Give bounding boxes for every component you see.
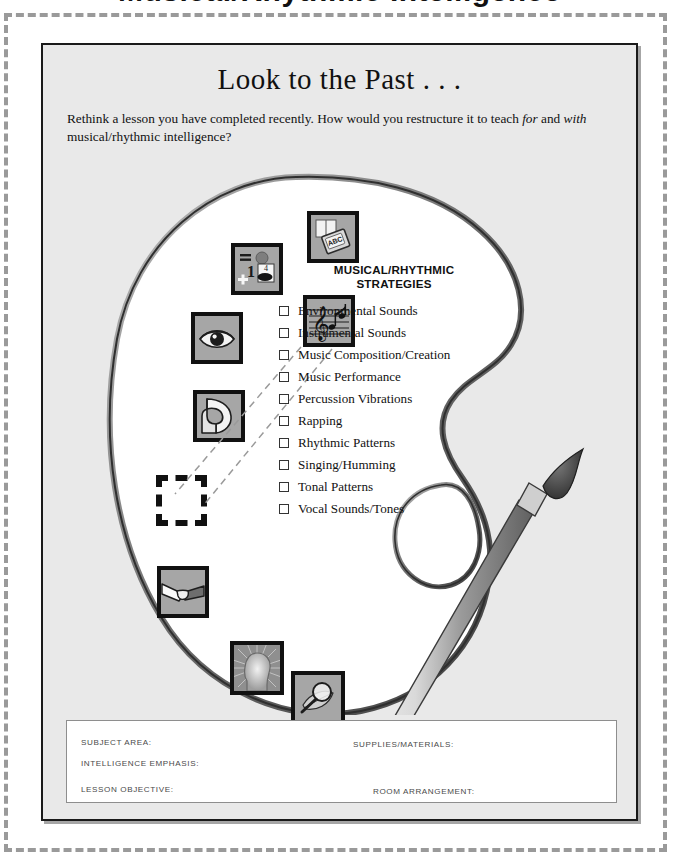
list-item-label: Singing/Humming xyxy=(298,457,396,473)
lesson-objective-label: LESSON OBJECTIVE: xyxy=(81,785,174,794)
cropped-page-title: Musical/Rhythmic Intelligence xyxy=(0,0,679,13)
cropped-page-title-text: Musical/Rhythmic Intelligence xyxy=(0,0,679,8)
worksheet-card: Look to the Past . . . Rethink a lesson … xyxy=(41,43,638,821)
verbal-linguistic-book-icon[interactable]: ABC xyxy=(307,211,359,263)
checkbox[interactable] xyxy=(279,372,289,382)
list-item[interactable]: Singing/Humming xyxy=(279,457,509,473)
list-item[interactable]: Environmental Sounds xyxy=(279,303,509,319)
prompt-emphasis-with: with xyxy=(564,111,587,126)
logical-mathematical-icon[interactable]: 1 4 xyxy=(231,243,283,295)
list-item-label: Rhythmic Patterns xyxy=(298,435,395,451)
checkbox[interactable] xyxy=(279,438,289,448)
list-item-label: Music Composition/Creation xyxy=(298,347,450,363)
strategies-heading-line2: STRATEGIES xyxy=(279,277,509,291)
page-title: Look to the Past . . . xyxy=(43,63,636,96)
prompt-text-2: and xyxy=(538,111,564,126)
checkbox[interactable] xyxy=(279,504,289,514)
list-item[interactable]: Rapping xyxy=(279,413,509,429)
bodily-kinesthetic-arm-icon[interactable] xyxy=(193,390,245,442)
empty-placeholder-icon[interactable] xyxy=(156,475,207,526)
svg-text:1: 1 xyxy=(247,263,255,280)
strategies-heading-line1: MUSICAL/RHYTHMIC xyxy=(334,263,454,276)
list-item-label: Tonal Patterns xyxy=(298,479,373,495)
checkbox[interactable] xyxy=(279,394,289,404)
lesson-form-box: SUBJECT AREA: INTELLIGENCE EMPHASIS: LES… xyxy=(66,720,617,803)
list-item-label: Vocal Sounds/Tones xyxy=(298,501,404,517)
intrapersonal-head-icon[interactable] xyxy=(230,641,284,695)
visual-spatial-eye-icon[interactable] xyxy=(191,312,243,364)
palette-illustration: ABC 1 4 xyxy=(43,149,638,715)
strategies-heading: MUSICAL/RHYTHMIC STRATEGIES xyxy=(279,263,509,292)
room-arrangement-label: ROOM ARRANGEMENT: xyxy=(373,787,475,796)
list-item[interactable]: Vocal Sounds/Tones xyxy=(279,501,509,517)
list-item[interactable]: Music Performance xyxy=(279,369,509,385)
checkbox[interactable] xyxy=(279,482,289,492)
list-item-label: Music Performance xyxy=(298,369,401,385)
checkbox[interactable] xyxy=(279,460,289,470)
prompt-text-3: musical/rhythmic intelligence? xyxy=(67,129,231,144)
list-item-label: Rapping xyxy=(298,413,342,429)
list-item-label: Percussion Vibrations xyxy=(298,391,412,407)
subject-area-label: SUBJECT AREA: xyxy=(81,738,152,747)
naturalist-magnifier-leaf-icon[interactable] xyxy=(291,671,345,725)
strategies-block: MUSICAL/RHYTHMIC STRATEGIES Environmenta… xyxy=(279,263,509,523)
checkbox[interactable] xyxy=(279,350,289,360)
strategies-checklist: Environmental Sounds Instrumental Sounds… xyxy=(279,303,509,517)
list-item[interactable]: Tonal Patterns xyxy=(279,479,509,495)
checkbox[interactable] xyxy=(279,306,289,316)
intelligence-emphasis-label: INTELLIGENCE EMPHASIS: xyxy=(81,759,199,768)
list-item[interactable]: Music Composition/Creation xyxy=(279,347,509,363)
checkbox[interactable] xyxy=(279,416,289,426)
list-item[interactable]: Instrumental Sounds xyxy=(279,325,509,341)
list-item[interactable]: Rhythmic Patterns xyxy=(279,435,509,451)
list-item-label: Instrumental Sounds xyxy=(298,325,406,341)
list-item[interactable]: Percussion Vibrations xyxy=(279,391,509,407)
interpersonal-handshake-icon[interactable] xyxy=(157,566,209,618)
svg-text:4: 4 xyxy=(264,264,268,273)
checkbox[interactable] xyxy=(279,328,289,338)
prompt-paragraph: Rethink a lesson you have completed rece… xyxy=(67,110,612,147)
prompt-emphasis-for: for xyxy=(522,111,538,126)
list-item-label: Environmental Sounds xyxy=(298,303,418,319)
supplies-materials-label: SUPPLIES/MATERIALS: xyxy=(353,740,454,749)
prompt-text-1: Rethink a lesson you have completed rece… xyxy=(67,111,522,126)
